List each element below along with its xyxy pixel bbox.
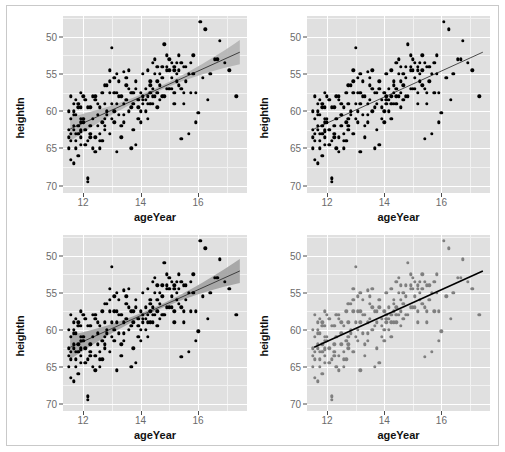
y-tick-label: 60 xyxy=(290,324,301,335)
x-tick-label: 12 xyxy=(321,415,332,426)
x-tick-labels: 121416 xyxy=(9,193,253,209)
y-tick-label: 50 xyxy=(290,250,301,261)
x-tick-mark xyxy=(141,193,142,197)
x-tick-label: 14 xyxy=(135,197,146,208)
x-tick-mark xyxy=(83,411,84,415)
x-tick-label: 12 xyxy=(78,197,89,208)
x-tick-mark xyxy=(441,411,442,415)
y-tick-label: 60 xyxy=(290,106,301,117)
x-tick-label: 12 xyxy=(78,415,89,426)
panel-background xyxy=(307,16,490,193)
regression-line xyxy=(314,271,483,347)
x-tick-label: 12 xyxy=(321,197,332,208)
regression-fit xyxy=(307,235,490,411)
y-tick-label: 70 xyxy=(290,180,301,191)
panel-background xyxy=(63,16,247,193)
y-tick-label: 50 xyxy=(46,250,57,261)
figure-border: heightIn 7065605550 121416 ageYear heigh… xyxy=(6,5,499,446)
x-tick-labels: 121416 xyxy=(253,193,496,209)
y-tick-label: 60 xyxy=(46,106,57,117)
x-tick-label: 16 xyxy=(436,415,447,426)
x-tick-label: 16 xyxy=(436,197,447,208)
x-axis-title: ageYear xyxy=(63,211,247,223)
x-tick-mark xyxy=(141,411,142,415)
x-tick-labels: 121416 xyxy=(9,411,253,427)
plot-panel-top-right: heightIn 7065605550 121416 ageYear xyxy=(253,8,496,227)
y-tick-label: 70 xyxy=(46,180,57,191)
x-tick-mark xyxy=(198,193,199,197)
panel-background xyxy=(63,235,247,411)
x-tick-mark xyxy=(198,411,199,415)
x-tick-label: 14 xyxy=(135,415,146,426)
x-tick-mark xyxy=(384,193,385,197)
regression-fit xyxy=(63,235,247,411)
y-tick-label: 55 xyxy=(290,69,301,80)
x-tick-mark xyxy=(327,193,328,197)
x-tick-mark xyxy=(441,193,442,197)
y-tick-label: 55 xyxy=(290,287,301,298)
y-tick-label: 65 xyxy=(46,361,57,372)
y-tick-label: 65 xyxy=(290,361,301,372)
plot-panel-top-left: heightIn 7065605550 121416 ageYear xyxy=(9,8,253,227)
x-tick-label: 16 xyxy=(193,415,204,426)
y-tick-labels: 7065605550 xyxy=(27,235,63,411)
x-tick-label: 14 xyxy=(379,415,390,426)
panel-background xyxy=(307,235,490,411)
x-axis-title: ageYear xyxy=(307,211,490,223)
x-tick-label: 16 xyxy=(193,197,204,208)
x-tick-labels: 121416 xyxy=(253,411,496,427)
y-tick-label: 60 xyxy=(46,324,57,335)
x-tick-mark xyxy=(83,193,84,197)
x-tick-mark xyxy=(327,411,328,415)
y-tick-label: 65 xyxy=(46,143,57,154)
x-tick-mark xyxy=(384,411,385,415)
y-tick-label: 50 xyxy=(46,31,57,42)
y-tick-label: 70 xyxy=(46,398,57,409)
y-tick-label: 55 xyxy=(46,69,57,80)
panel-grid: heightIn 7065605550 121416 ageYear heigh… xyxy=(7,6,498,445)
y-tick-labels: 7065605550 xyxy=(271,16,307,193)
y-tick-label: 70 xyxy=(290,398,301,409)
y-tick-label: 50 xyxy=(290,31,301,42)
regression-fit xyxy=(307,16,490,193)
y-tick-labels: 7065605550 xyxy=(27,16,63,193)
plot-panel-bottom-right: heightIn 7065605550 121416 ageYear xyxy=(253,227,496,445)
x-tick-label: 14 xyxy=(379,197,390,208)
y-tick-label: 55 xyxy=(46,287,57,298)
plot-panel-bottom-left: heightIn 7065605550 121416 ageYear xyxy=(9,227,253,445)
y-tick-label: 65 xyxy=(290,143,301,154)
x-axis-title: ageYear xyxy=(63,429,247,441)
x-axis-title: ageYear xyxy=(307,429,490,441)
regression-fit xyxy=(63,16,247,193)
y-tick-labels: 7065605550 xyxy=(271,235,307,411)
